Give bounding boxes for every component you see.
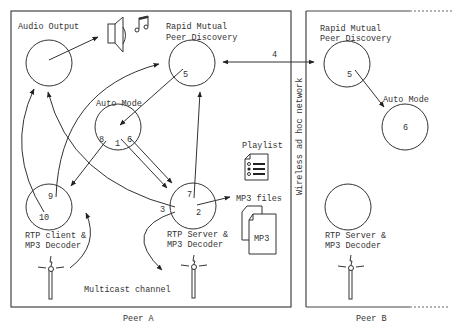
arrow-1 <box>121 139 167 188</box>
playlist-label: Playlist <box>242 141 283 151</box>
rtp-server-a-num-7: 7 <box>187 190 192 200</box>
rtp-server-a-num-2: 2 <box>196 208 201 218</box>
auto-mode-a-num-1: 1 <box>115 139 120 149</box>
rtp-server-a-num-3: 3 <box>160 205 165 215</box>
music-note-icon <box>135 16 148 32</box>
rmpd-b-label-1: Rapid Mutual <box>320 24 381 34</box>
arrow-10 <box>22 89 44 212</box>
arrow-7 <box>194 92 200 198</box>
rtp-server-b-label-2: MP3 Decoder <box>325 241 381 251</box>
mp3-files-icon: MP3 <box>242 206 276 254</box>
arrow-6 <box>130 138 172 183</box>
rmpd-b-num: 5 <box>347 70 352 80</box>
auto-mode-b-num: 6 <box>403 123 408 133</box>
arrow-rmpd-to-auto <box>120 69 183 125</box>
arrow-2 <box>197 197 230 205</box>
rtp-server-a-node <box>170 183 216 229</box>
rtp-client-label-2: MP3 Decoder <box>25 241 81 251</box>
peer-b-box <box>306 11 452 307</box>
antenna-icon-server-a <box>181 255 207 298</box>
arrow-5-b <box>355 70 384 107</box>
peer-b-label: Peer B <box>356 314 387 324</box>
auto-mode-b-label: Auto Mode <box>383 95 429 105</box>
rmpd-a-label-2: Peer Discovery <box>166 33 237 43</box>
rtp-server-a-label-2: MP3 Decoder <box>167 240 223 250</box>
arrow-8 <box>71 141 106 186</box>
auto-mode-a-num-8: 8 <box>99 135 104 145</box>
audio-output-node <box>26 40 72 86</box>
rtp-client-label-1: RTP client & <box>25 231 86 241</box>
arrow-9 <box>56 64 159 197</box>
peer-a-label: Peer A <box>123 314 155 324</box>
antenna-icon-client <box>38 256 64 299</box>
antenna-icon-server-b <box>338 255 364 299</box>
rtp-server-a-label-1: RTP Server & <box>167 230 228 240</box>
rmpd-a-label-1: Rapid Mutual <box>166 22 227 32</box>
rtp-server-b-node <box>325 184 371 230</box>
multicast-label: Multicast channel <box>84 285 171 295</box>
speaker-icon <box>108 17 126 52</box>
audio-output-label: Audio Output <box>18 22 79 32</box>
rmpd-a-num: 5 <box>183 70 188 80</box>
rtp-client-num-10: 10 <box>39 213 49 223</box>
mp3-doc-label: MP3 <box>254 234 269 244</box>
link-num: 4 <box>272 50 277 60</box>
rmpd-a-node <box>169 40 215 86</box>
mp3-files-label: MP3 files <box>236 194 282 204</box>
rtp-server-b-label-1: RTP Server & <box>325 231 386 241</box>
playlist-icon <box>245 154 268 180</box>
architecture-diagram: Peer A Peer B Wireless ad hoc network Au… <box>0 0 461 331</box>
rtp-client-num-9: 9 <box>48 192 53 202</box>
network-label: Wireless ad hoc network <box>295 78 305 195</box>
